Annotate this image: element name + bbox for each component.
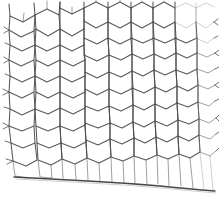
hexagonal-mesh-drawing bbox=[0, 0, 219, 197]
wire-netting-figure: Hexagonal wire netting bbox=[0, 0, 219, 197]
